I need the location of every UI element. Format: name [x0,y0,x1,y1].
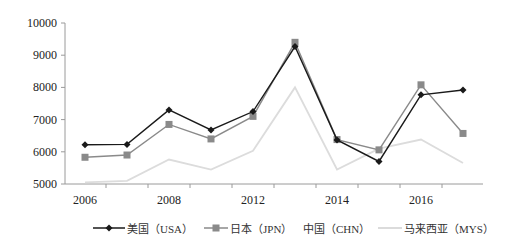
legend-item-chn: 中国（CHN） [303,219,370,237]
y-axis: 5000600070008000900010000 [27,16,65,191]
square-line-icon [204,221,228,235]
y-tick-label: 5000 [33,177,57,191]
series-line [85,42,463,157]
y-tick-label: 8000 [33,80,57,94]
line-chart: 5000600070008000900010000 20062008201220… [0,0,512,215]
x-tick-label: 2016 [409,193,433,207]
legend-label-usa: 美国（USA） [127,220,193,236]
diamond-marker [460,86,467,93]
legend-label-jpn: 日本（JPN） [230,220,292,236]
legend-label-mys: 马来西亚（MYS） [404,220,494,236]
diamond-marker [82,141,89,148]
y-tick-label: 10000 [27,16,57,30]
square-marker [208,135,215,142]
square-marker [124,152,131,159]
x-tick-label: 2006 [73,193,97,207]
legend-item-jpn: 日本（JPN） [204,219,292,237]
series-layer [82,39,467,183]
y-tick-label: 6000 [33,145,57,159]
y-tick-label: 7000 [33,113,57,127]
x-axis: 20062008201220142016 [65,184,483,207]
x-tick-label: 2014 [325,193,349,207]
y-tick-label: 9000 [33,48,57,62]
legend-item-mys: 马来西亚（MYS） [378,219,494,237]
square-marker [376,146,383,153]
square-marker [166,121,173,128]
diamond-marker [418,91,425,98]
diamond-line-icon [93,221,125,235]
x-tick-label: 2012 [241,193,265,207]
light-line-icon [378,221,402,235]
series-line [85,87,463,182]
square-marker [460,130,467,137]
legend-label-chn: 中国（CHN） [303,220,370,236]
diamond-marker [208,126,215,133]
diamond-marker [376,158,383,165]
legend-item-usa: 美国（USA） [93,219,193,237]
square-marker [418,81,425,88]
legend: 美国（USA） 日本（JPN） 中国（CHN） 马来西亚（MYS） [0,219,512,237]
x-tick-label: 2008 [157,193,181,207]
square-marker [82,154,89,161]
